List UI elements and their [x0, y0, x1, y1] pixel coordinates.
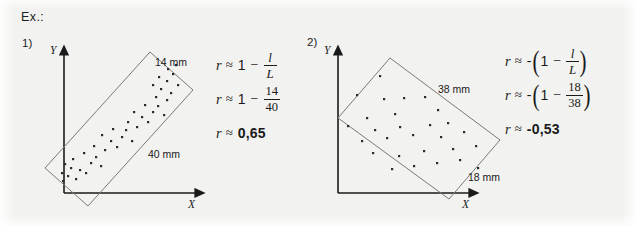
paren-close: ): [580, 49, 587, 72]
result-lhs: r: [505, 121, 511, 138]
fraction-numerator: l: [266, 51, 274, 64]
formula-operator: −: [553, 87, 561, 103]
panel-2-x-axis-label: X: [462, 198, 469, 210]
panel-1-points: [61, 64, 179, 182]
formula-operator: −: [251, 57, 259, 73]
formula-negative-sign: -: [527, 87, 532, 103]
panel-2-formula-1: r ≈ - ( 1 − l L ): [505, 44, 591, 78]
formula-operator: −: [251, 91, 259, 107]
formula-lhs: r: [216, 91, 222, 108]
panel-2-result: r ≈ -0,53: [505, 112, 591, 146]
page-title: Ex.:: [21, 10, 44, 24]
panel-2-long-side-label: 38 mm: [438, 83, 470, 95]
panel-1-ellipse-box: [45, 52, 193, 206]
paren-open: (: [533, 49, 540, 72]
formula-lhs: r: [505, 87, 511, 104]
formula-fraction: 14 40: [264, 85, 281, 113]
panel-2-formulas: r ≈ - ( 1 − l L ) r ≈ - ( 1 − 18 38: [505, 44, 591, 146]
fraction-numerator: l: [569, 47, 577, 60]
formula-operand: 1: [540, 87, 548, 103]
panel-2-short-side-label: 18 mm: [468, 171, 500, 183]
formula-relation: ≈: [226, 91, 233, 107]
fraction-denominator: L: [567, 63, 578, 76]
result-relation: ≈: [226, 125, 233, 141]
panel-1-number: 1): [22, 37, 32, 49]
panel-1-result: r ≈ 0,65: [216, 116, 280, 150]
formula-relation: ≈: [515, 87, 522, 103]
fraction-denominator: L: [264, 67, 275, 80]
example-figure: Ex.: 1) 2): [0, 0, 636, 226]
fraction-numerator: 18: [566, 81, 583, 94]
paren-close: ): [583, 83, 590, 106]
formula-lhs: r: [505, 53, 511, 70]
panel-2-number: 2): [307, 36, 317, 48]
formula-relation: ≈: [226, 57, 233, 73]
panel-1-y-axis-label: Y: [50, 44, 56, 56]
result-relation: ≈: [515, 121, 522, 137]
formula-fraction: 18 38: [566, 81, 583, 109]
formula-operand: 1: [238, 91, 246, 107]
fraction-denominator: 40: [264, 101, 281, 114]
formula-operator: −: [553, 53, 561, 69]
formula-relation: ≈: [515, 53, 522, 69]
paren-open: (: [533, 83, 540, 106]
fraction-numerator: 14: [264, 85, 281, 98]
panel-1-formulas: r ≈ 1 − l L r ≈ 1 − 14 40 r ≈ 0,65: [216, 48, 280, 150]
panel-1-x-axis-label: X: [188, 198, 195, 210]
panel-2-axes: [338, 54, 470, 193]
formula-operand: 1: [540, 53, 548, 69]
result-lhs: r: [216, 125, 222, 142]
panel-1-long-side-label: 40 mm: [148, 148, 180, 160]
result-value: 0,65: [238, 125, 266, 141]
fraction-denominator: 38: [566, 97, 583, 110]
panel-1-formula-1: r ≈ 1 − l L: [216, 48, 280, 82]
formula-operand: 1: [238, 57, 246, 73]
formula-fraction: l L: [566, 47, 579, 76]
panel-1-formula-2: r ≈ 1 − 14 40: [216, 82, 280, 116]
result-value: -0,53: [527, 121, 560, 137]
formula-lhs: r: [216, 57, 222, 74]
panel-1-short-side-label: 14 mm: [155, 56, 187, 68]
panel-2-formula-2: r ≈ - ( 1 − 18 38 ): [505, 78, 591, 112]
formula-negative-sign: -: [527, 53, 532, 69]
panel-2-y-axis-label: Y: [324, 44, 330, 56]
formula-fraction: l L: [264, 51, 277, 80]
